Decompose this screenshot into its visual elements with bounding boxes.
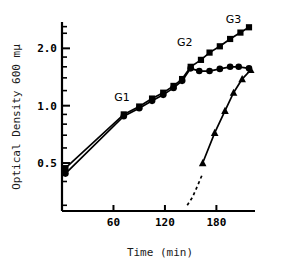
series-growth-plateau xyxy=(62,64,252,177)
y-tick-label: 1.0 xyxy=(37,100,57,113)
data-point-triangle xyxy=(221,107,229,114)
y-tick-label: 2.0 xyxy=(37,42,57,55)
data-point-square xyxy=(237,29,243,35)
y-axis-ticks xyxy=(62,27,70,206)
data-point-square xyxy=(198,57,204,63)
y-axis-title: Optical Density 600 mμ xyxy=(10,44,23,190)
x-tick-label: 180 xyxy=(206,216,226,229)
data-point-circle xyxy=(206,68,213,75)
data-series-layer xyxy=(62,24,254,205)
data-point-circle xyxy=(160,92,167,99)
data-point-circle xyxy=(149,98,156,105)
series-line xyxy=(203,70,251,163)
chart-figure: 0.51.02.0 60120180 G1G2G3 Optical Densit… xyxy=(0,0,282,270)
data-point-circle xyxy=(62,170,69,177)
chart-canvas: 0.51.02.0 60120180 G1G2G3 Optical Densit… xyxy=(0,0,282,270)
y-axis-tick-labels: 0.51.02.0 xyxy=(37,42,57,170)
series-delayed-growth xyxy=(187,66,254,205)
data-point-circle xyxy=(179,78,186,85)
data-point-circle xyxy=(187,65,194,72)
data-point-square xyxy=(206,49,212,55)
data-point-circle xyxy=(196,68,203,75)
data-point-circle xyxy=(217,66,224,73)
data-point-triangle xyxy=(199,159,207,166)
y-tick-label: 0.5 xyxy=(37,157,57,170)
x-tick-label: 120 xyxy=(155,216,175,229)
phase-label-g2: G2 xyxy=(177,36,193,49)
data-point-square xyxy=(246,24,252,30)
plot-area: 0.51.02.0 60120180 G1G2G3 xyxy=(37,13,255,229)
x-axis-tick-labels: 60120180 xyxy=(107,216,226,229)
data-point-triangle xyxy=(211,129,219,136)
data-point-square xyxy=(227,36,233,42)
phase-label-g1: G1 xyxy=(114,91,130,104)
data-point-circle xyxy=(136,105,143,112)
data-point-square xyxy=(217,43,223,49)
data-point-circle xyxy=(120,113,127,120)
data-point-circle xyxy=(170,85,177,92)
data-point-circle xyxy=(235,64,242,71)
data-point-circle xyxy=(227,64,234,71)
series-annotations: G1G2G3 xyxy=(114,13,241,104)
series-dashed-line xyxy=(187,174,202,206)
x-axis-title: Time (min) xyxy=(127,246,193,259)
x-tick-label: 60 xyxy=(107,216,120,229)
phase-label-g3: G3 xyxy=(226,13,242,26)
